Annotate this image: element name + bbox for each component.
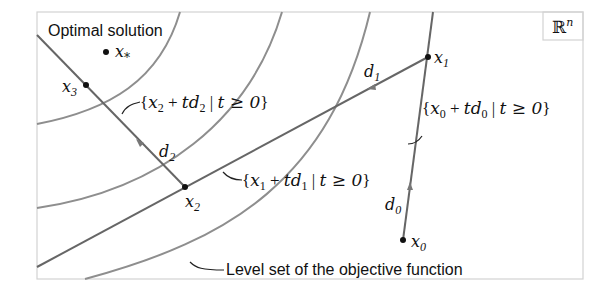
leader-r0 [408, 136, 422, 144]
point-x2 [182, 184, 188, 190]
space-label: ℝn [552, 16, 573, 37]
point-x3 [83, 82, 89, 88]
direction-arrow-d1 [367, 84, 376, 90]
point-x0 [400, 237, 406, 243]
direction-arrow-d0 [407, 182, 413, 190]
ray-x0 [403, 12, 433, 240]
label-x3: x3 [62, 77, 77, 99]
label-d0: d0 [385, 195, 401, 217]
ray-set-label-x0: {x0 + td0 | t ≥ 0} [422, 98, 550, 121]
leader-level-set [190, 262, 224, 270]
label-x-star: x* [115, 42, 130, 65]
label-x2: x2 [185, 192, 200, 214]
leader-r1 [223, 172, 242, 180]
optimal-solution-label: Optimal solution [48, 22, 163, 39]
optimization-diagram: ℝn x* x0 x1 x2 x3 d0 d1 d2 Optimal solut… [0, 0, 610, 299]
label-d1: d1 [364, 62, 380, 84]
leader-r2 [122, 102, 140, 114]
ray-set-label-x1: {x1 + td1 | t ≥ 0} [242, 170, 370, 193]
label-x1: x1 [434, 48, 449, 70]
point-x-star [103, 49, 109, 55]
label-d2: d2 [159, 142, 175, 164]
level-set-label: Level set of the objective function [226, 261, 463, 278]
label-x0: x0 [411, 232, 426, 254]
point-x1 [425, 54, 431, 60]
ray-set-label-x2: {x2 + td2 | t ≥ 0} [140, 92, 268, 115]
